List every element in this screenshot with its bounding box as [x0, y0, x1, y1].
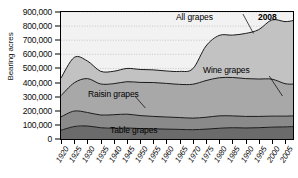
y-tick-label: 300,000: [23, 92, 52, 102]
x-tick-mark: [74, 140, 75, 144]
y-tick-label: 400,000: [23, 78, 52, 88]
y-tick-label: 800,000: [23, 21, 52, 31]
annotation-table-grapes: Table grapes: [110, 125, 157, 135]
y-tick-label: 900,000: [23, 7, 52, 17]
x-tick-mark: [140, 140, 141, 144]
x-tick-mark: [219, 140, 220, 144]
annotation-raisin-grapes: Raisin grapes: [88, 89, 139, 99]
x-tick-mark: [193, 140, 194, 144]
x-tick-mark: [206, 140, 207, 144]
y-tick-label: 100,000: [23, 120, 52, 130]
x-tick-mark: [259, 140, 260, 144]
plot-area: [60, 11, 294, 140]
annotation-year-2008: 2008: [258, 12, 277, 22]
x-tick-mark: [87, 140, 88, 144]
x-tick-mark: [61, 140, 62, 144]
y-axis: 0100,000200,000300,000400,000500,000600,…: [0, 0, 60, 178]
y-tick-label: 500,000: [23, 63, 52, 73]
x-tick-mark: [180, 140, 181, 144]
x-tick-mark: [127, 140, 128, 144]
stacked-area-svg: [61, 12, 293, 139]
x-tick-mark: [153, 140, 154, 144]
y-tick-label: 600,000: [23, 49, 52, 59]
y-tick-label: 200,000: [23, 106, 52, 116]
x-tick-mark: [272, 140, 273, 144]
annotation-all-grapes: All grapes: [176, 12, 213, 22]
y-tick-label: 0: [47, 134, 52, 144]
leader-all-grapes: [243, 14, 254, 33]
x-tick-mark: [285, 140, 286, 144]
annotation-wine-grapes: Wine grapes: [203, 65, 250, 75]
x-axis: 1920192519301935194019451950195519601965…: [60, 140, 294, 178]
grape-acreage-chart: Bearing acres 0100,000200,000300,000400,…: [0, 0, 298, 178]
x-tick-mark: [114, 140, 115, 144]
x-tick-mark: [166, 140, 167, 144]
x-tick-mark: [232, 140, 233, 144]
x-tick-mark: [246, 140, 247, 144]
y-tick-label: 700,000: [23, 35, 52, 45]
x-tick-mark: [101, 140, 102, 144]
